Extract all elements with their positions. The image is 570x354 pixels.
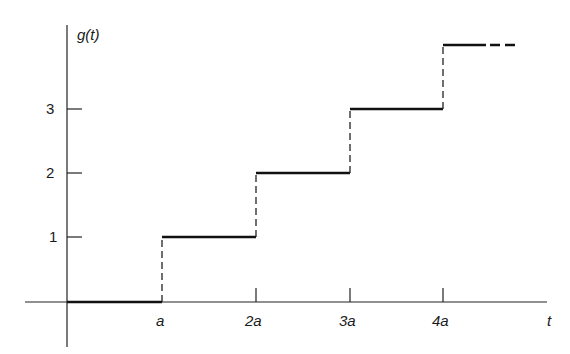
x-axis-label: t [547, 312, 552, 329]
y-axis-label: g(t) [77, 26, 100, 43]
x-tick-label-4a: 4a [432, 312, 449, 329]
y-tick-label-3: 3 [46, 100, 54, 117]
step-series [67, 45, 520, 302]
y-tick-label-2: 2 [46, 164, 54, 181]
x-tick-label-a: a [156, 312, 164, 329]
x-tick-label-3a: 3a [339, 312, 356, 329]
step-function-chart: g(t) 3 2 1 a 2a 3a 4a t [0, 0, 570, 354]
y-tick-label-1: 1 [49, 228, 57, 245]
x-tick-label-2a: 2a [244, 312, 262, 329]
